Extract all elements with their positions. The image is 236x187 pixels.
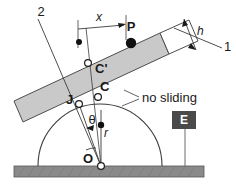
- axis-1-label: 1: [224, 39, 231, 54]
- no-sliding-label: no sliding: [142, 90, 197, 105]
- angle-theta-label: θ: [88, 112, 95, 127]
- dim-x-origin-dot: [76, 39, 82, 45]
- point-J-marker: [76, 101, 83, 108]
- point-C-marker: [95, 94, 102, 101]
- dimension-x: x: [76, 10, 126, 48]
- dim-x-label: x: [95, 10, 103, 24]
- dim-h-label: h: [197, 24, 204, 38]
- dim-x-line: [78, 25, 124, 29]
- dim-r-label: r: [104, 126, 109, 140]
- point-C-label: C: [100, 79, 110, 94]
- dim-x-arrowhead: [118, 23, 126, 28]
- no-sliding-leader-lower: [122, 99, 139, 106]
- point-C-prime-marker: [85, 60, 92, 67]
- point-O-marker: [98, 163, 105, 170]
- point-C-prime-label: C': [95, 61, 107, 76]
- point-P-label: P: [127, 19, 136, 34]
- point-P: P: [126, 19, 136, 48]
- figure-container: E 1 2: [0, 0, 236, 187]
- reference-frame-E: E: [172, 111, 196, 166]
- no-sliding-annotation: no sliding: [122, 90, 197, 106]
- point-P-marker: [126, 38, 136, 48]
- badge-E-label: E: [180, 113, 188, 127]
- ground-band: [14, 166, 204, 177]
- point-J-label: J: [66, 92, 73, 107]
- point-O-label: O: [83, 151, 93, 166]
- mechanics-diagram: E 1 2: [0, 0, 236, 187]
- no-sliding-leader-upper: [124, 90, 139, 97]
- axis-2-label: 2: [37, 4, 44, 19]
